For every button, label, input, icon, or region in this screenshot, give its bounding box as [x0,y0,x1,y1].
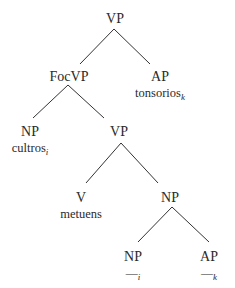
category-label: AP [135,70,185,84]
node-ap-top: AP tonsoriosk [135,70,185,102]
index-subscript: k [181,92,185,102]
node-focvp: FocVP [50,70,89,84]
node-root-vp: VP [106,12,124,26]
edge-np-nptrace [138,207,172,242]
edge-focvp-np [33,85,68,118]
node-vp-inner: VP [110,125,128,139]
edge-root-ap [114,29,150,64]
node-np-trace: NP —i [124,250,142,282]
node-np-top: NP cultrosi [12,125,49,157]
edge-np-aptrace [172,207,209,242]
category-label: NP [161,191,179,205]
category-label: VP [106,12,124,26]
index-subscript: i [138,272,141,282]
category-label: V [60,191,102,205]
edge-focvp-vp [68,85,104,118]
edge-vp-v [86,143,121,183]
terminal-word: tonsoriosk [135,87,185,102]
category-label: NP [12,125,49,139]
category-label: NP [124,250,142,264]
category-label: VP [110,125,128,139]
edge-vp-np [121,143,158,183]
index-subscript: i [46,147,49,157]
terminal-word: metuens [60,208,102,221]
category-label: AP [200,250,218,264]
node-np-mid: NP [161,191,179,205]
edge-root-focvp [80,29,114,64]
trace-marker: —i [124,267,142,282]
trace-marker: —k [200,267,218,282]
terminal-word: cultrosi [12,142,49,157]
index-subscript: k [213,272,217,282]
node-v: V metuens [60,191,102,221]
node-ap-trace: AP —k [200,250,218,282]
category-label: FocVP [50,70,89,84]
